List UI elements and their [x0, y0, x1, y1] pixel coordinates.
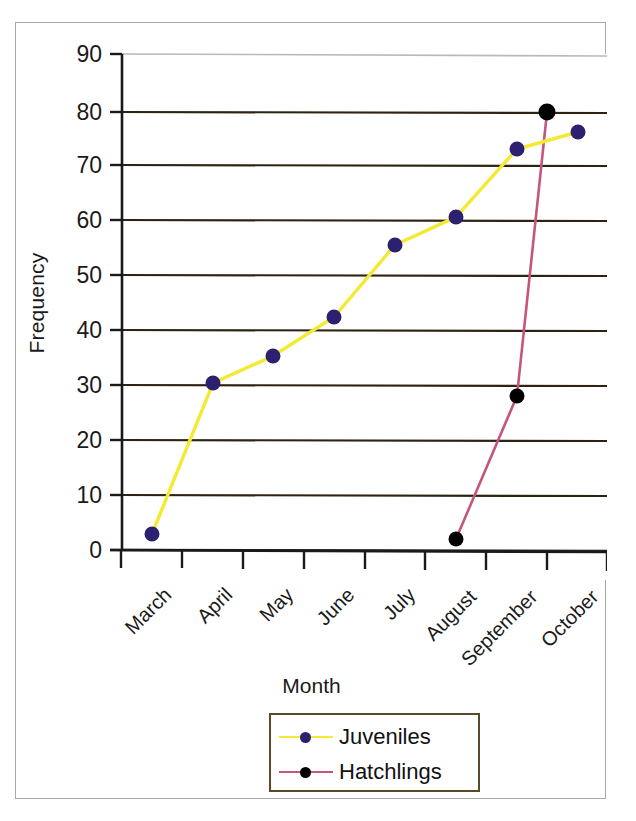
- y-tick-label-80: 80: [56, 99, 102, 126]
- plot-background: [121, 54, 607, 580]
- y-tick-label-40: 40: [56, 317, 102, 344]
- legend-label-juveniles: Juveniles: [339, 724, 431, 750]
- y-axis-ticks: [110, 54, 122, 550]
- y-tick-label-20: 20: [56, 427, 102, 454]
- y-tick-label-70: 70: [56, 152, 102, 179]
- y-tick-label-30: 30: [56, 372, 102, 399]
- legend-marker-juveniles: [300, 732, 311, 743]
- chart-screenshot: 90 80 70 60 50 40 30 20 10 0 March April…: [0, 0, 636, 821]
- y-tick-label-0: 0: [56, 537, 102, 564]
- y-tick-label-60: 60: [56, 207, 102, 234]
- legend-item-hatchlings[interactable]: Hatchlings: [279, 754, 442, 790]
- y-tick-label-50: 50: [56, 262, 102, 289]
- legend-label-hatchlings: Hatchlings: [339, 759, 442, 785]
- y-tick-label-90: 90: [56, 41, 102, 68]
- chart-frame: 90 80 70 60 50 40 30 20 10 0 March April…: [15, 22, 606, 799]
- legend-swatch-juveniles: [279, 730, 333, 744]
- legend-swatch-hatchlings: [279, 765, 333, 779]
- legend-item-juveniles[interactable]: Juveniles: [279, 719, 431, 755]
- x-axis-title: Month: [16, 674, 607, 698]
- legend-marker-hatchlings: [300, 767, 311, 778]
- y-axis-title: Frequency: [25, 223, 49, 383]
- y-tick-label-10: 10: [56, 482, 102, 509]
- chart-legend: Juveniles Hatchlings: [269, 713, 480, 792]
